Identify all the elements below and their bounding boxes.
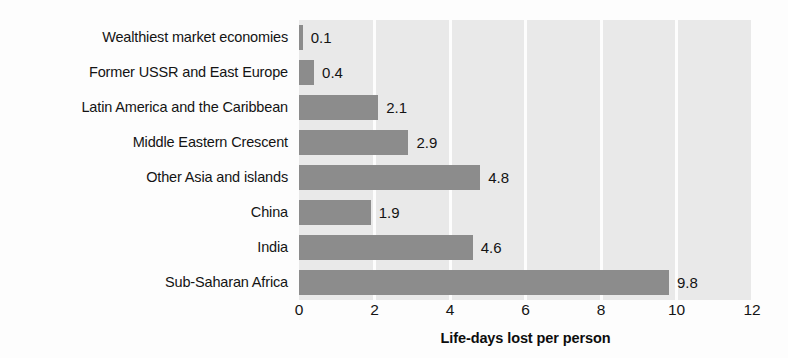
bar-value-label: 2.9 [416,135,437,150]
category-label-column: Wealthiest market economiesFormer USSR a… [0,20,294,300]
bar-value-label: 9.8 [677,275,698,290]
bar-value-label: 2.1 [386,100,407,115]
bar-chart-figure: Wealthiest market economiesFormer USSR a… [0,0,788,358]
category-label: China [251,205,288,220]
bar-row: 1.9 [299,195,752,230]
bar-value-label: 0.4 [322,65,343,80]
bar-value-label: 4.8 [488,170,509,185]
bar-row: 4.8 [299,160,752,195]
category-label: Latin America and the Caribbean [81,100,288,115]
category-label: Other Asia and islands [146,170,288,185]
category-label-row: China [0,195,294,230]
bar-value-label: 4.6 [481,240,502,255]
bar-row: 2.9 [299,125,752,160]
category-label-row: Former USSR and East Europe [0,55,294,90]
plot-area: 0.10.42.12.94.81.94.69.8 [299,20,752,300]
x-tick-label: 12 [743,302,760,318]
x-tick-label: 8 [597,302,606,318]
bar-value-label: 0.1 [311,30,332,45]
bar-value-label: 1.9 [379,205,400,220]
bar-row: 9.8 [299,265,752,300]
category-label: Sub-Saharan Africa [165,275,288,290]
x-axis-ticks: 024681012 [299,302,752,326]
category-label-row: India [0,230,294,265]
bar [299,60,314,85]
bar-row: 4.6 [299,230,752,265]
category-label-row: Middle Eastern Crescent [0,125,294,160]
bar [299,270,669,295]
bar [299,130,408,155]
x-tick-label: 6 [521,302,530,318]
bar-row: 0.1 [299,20,752,55]
category-label-row: Sub-Saharan Africa [0,265,294,300]
category-label: Wealthiest market economies [102,30,288,45]
x-tick-label: 2 [370,302,379,318]
bar [299,200,371,225]
category-label-row: Other Asia and islands [0,160,294,195]
x-tick-label: 0 [295,302,304,318]
x-tick-label: 10 [668,302,685,318]
x-axis-title: Life-days lost per person [299,330,752,346]
x-tick-label: 4 [446,302,455,318]
bar [299,235,473,260]
bar-row: 2.1 [299,90,752,125]
bar [299,165,480,190]
category-label: India [257,240,288,255]
category-label: Former USSR and East Europe [89,65,288,80]
bar-series: 0.10.42.12.94.81.94.69.8 [299,20,752,300]
bar-row: 0.4 [299,55,752,90]
bar [299,95,378,120]
category-label-row: Latin America and the Caribbean [0,90,294,125]
category-label: Middle Eastern Crescent [133,135,288,150]
bar [299,25,303,50]
category-label-row: Wealthiest market economies [0,20,294,55]
